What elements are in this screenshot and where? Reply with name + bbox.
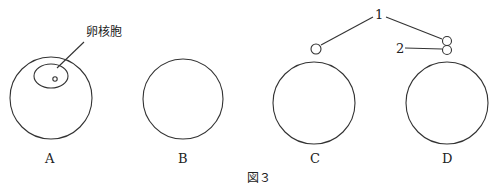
- panel-label-d: D: [442, 152, 452, 165]
- pointer-label-1: 1: [375, 8, 383, 21]
- panel-label-a: A: [45, 152, 54, 165]
- figure-caption: 図３: [247, 172, 271, 184]
- panel-label-c: C: [310, 152, 320, 165]
- germinal-vesicle: [34, 64, 68, 88]
- panel-label-b: B: [178, 152, 188, 165]
- oocyte-c: [273, 62, 355, 144]
- pointer-1-to-c: [321, 17, 373, 45]
- nucleolus: [53, 77, 57, 81]
- polar-body-c: [311, 44, 321, 54]
- pointer-2-to-d: [405, 48, 442, 49]
- oocyte-b: [143, 59, 223, 139]
- polar-body-d-upper: [443, 37, 452, 46]
- polar-body-d-lower: [443, 46, 452, 55]
- oocyte-a: [10, 57, 92, 139]
- germinal-vesicle-label: 卵核胞: [86, 26, 122, 38]
- diagram-canvas: [0, 0, 501, 190]
- pointer-1-to-d: [386, 17, 442, 39]
- pointer-label-2: 2: [396, 42, 404, 55]
- oocyte-d: [406, 62, 488, 144]
- germinal-vesicle-pointer: [57, 42, 84, 68]
